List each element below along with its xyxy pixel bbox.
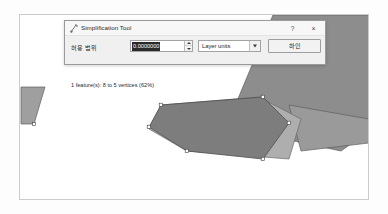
map-polygon-left-edge-sliver: [21, 87, 45, 124]
units-combobox-arrow-box[interactable]: [249, 41, 260, 51]
ok-button[interactable]: 하인: [268, 39, 321, 53]
tolerance-spinbox[interactable]: 0.0000000: [130, 40, 193, 52]
triangle-down-icon: [187, 48, 191, 50]
units-combobox[interactable]: Layer units: [198, 40, 261, 52]
map-polygon-simplified-hatch: [149, 97, 289, 159]
dialog-title: Simplification Tool: [81, 24, 131, 31]
tolerance-input[interactable]: 0.0000000: [131, 41, 184, 51]
chevron-down-icon: [253, 45, 257, 48]
units-combobox-value: Layer units: [202, 43, 230, 49]
tolerance-label: 허용 범위: [71, 43, 97, 52]
spinner-buttons[interactable]: [184, 41, 192, 51]
dialog-body: 허용 범위 0.0000000 Layer units: [65, 36, 325, 66]
dialog-titlebar[interactable]: Simplification Tool ? ×: [65, 21, 325, 36]
status-text: 1 feature(s): 8 to 5 vertices (62%): [71, 82, 154, 88]
tolerance-input-value: 0.0000000: [132, 42, 160, 51]
dialog-status-strip: 1 feature(s): 8 to 5 vertices (62%): [65, 66, 325, 78]
triangle-up-icon: [187, 42, 191, 44]
close-icon[interactable]: ×: [307, 22, 320, 35]
simplify-tool-icon: [70, 24, 78, 33]
spinner-down-button[interactable]: [185, 46, 192, 51]
screenshot-root: Simplification Tool ? × 허용 범위 0.0000000: [0, 0, 388, 214]
simplification-tool-dialog[interactable]: Simplification Tool ? × 허용 범위 0.0000000: [64, 20, 326, 65]
help-button[interactable]: ?: [286, 22, 299, 35]
